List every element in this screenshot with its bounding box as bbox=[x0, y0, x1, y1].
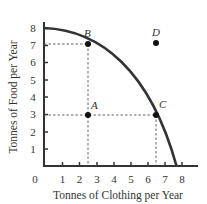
y-tick-1: 1 bbox=[30, 143, 36, 155]
point-b-label: B bbox=[84, 27, 91, 39]
y-tick-7: 7 bbox=[30, 39, 36, 51]
point-a-label: A bbox=[90, 99, 98, 111]
guide-lines bbox=[44, 44, 156, 166]
point-c bbox=[153, 112, 159, 118]
origin-label: 0 bbox=[32, 173, 38, 185]
x-tick-8: 8 bbox=[179, 173, 185, 185]
point-d bbox=[153, 40, 159, 46]
y-axis-title: Tonnes of Food per Year bbox=[7, 40, 20, 153]
point-c-label: C bbox=[159, 98, 167, 110]
point-labels: A B C D bbox=[84, 26, 167, 111]
point-a bbox=[85, 112, 91, 118]
y-tick-3: 3 bbox=[30, 108, 36, 120]
y-tick-6: 6 bbox=[30, 56, 36, 68]
x-tick-1: 1 bbox=[60, 173, 66, 185]
x-tick-2: 2 bbox=[77, 173, 83, 185]
point-b bbox=[85, 41, 91, 47]
y-tick-8: 8 bbox=[30, 22, 36, 34]
x-tick-4: 4 bbox=[111, 173, 117, 185]
ppf-curve bbox=[44, 28, 177, 166]
x-tick-5: 5 bbox=[128, 173, 134, 185]
x-tick-labels: 0 1 2 3 4 5 6 7 8 bbox=[32, 173, 185, 185]
y-tick-2: 2 bbox=[30, 126, 36, 138]
x-axis-title: Tonnes of Clothing per Year bbox=[53, 189, 183, 202]
x-tick-3: 3 bbox=[94, 173, 100, 185]
x-tick-7: 7 bbox=[162, 173, 168, 185]
y-tick-4: 4 bbox=[30, 91, 36, 103]
y-tick-labels: 8 7 6 5 4 3 2 1 bbox=[30, 22, 36, 155]
x-tick-6: 6 bbox=[145, 173, 151, 185]
ppf-chart: 8 7 6 5 4 3 2 1 0 1 2 3 4 5 6 7 8 Tonnes… bbox=[0, 0, 207, 204]
point-d-label: D bbox=[151, 26, 160, 38]
y-tick-5: 5 bbox=[30, 74, 36, 86]
